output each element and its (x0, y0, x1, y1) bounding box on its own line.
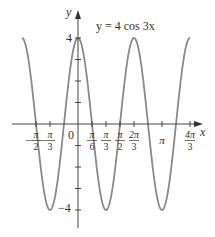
y-axis-label: y (65, 5, 72, 19)
x-tick-label: 4π (185, 129, 196, 140)
minus-sign: − (25, 134, 31, 146)
x-tick-label: π (89, 129, 95, 140)
x-tick-label: 3 (47, 141, 52, 152)
minus-sign: − (39, 134, 45, 146)
x-axis-label: x (199, 125, 206, 139)
y-tick-label-4: 4 (66, 31, 72, 45)
x-tick-label: π (103, 129, 109, 140)
x-tick-label: 3 (188, 141, 193, 152)
cosine-graph: π2−π3−π6π3π22π3π4π3 y x y = 4 cos 3x 4 −… (0, 0, 215, 237)
x-tick-label: 2 (118, 141, 123, 152)
x-tick-label: 2 (33, 141, 38, 152)
equation-label: y = 4 cos 3x (96, 19, 155, 33)
origin-label: 0 (68, 128, 74, 142)
x-ticks: π2−π3−π6π3π22π3π4π3 (25, 121, 196, 152)
x-tick-label: 6 (90, 141, 95, 152)
y-axis-arrow-icon (75, 10, 81, 19)
x-tick-label: π (117, 129, 123, 140)
x-tick-label: 3 (132, 141, 137, 152)
y-tick-label-neg4: −4 (58, 201, 71, 215)
x-tick-label: π (47, 129, 53, 140)
x-tick-label: 2π (129, 129, 140, 140)
x-tick-label: π (159, 134, 165, 146)
x-tick-label: 3 (104, 141, 109, 152)
